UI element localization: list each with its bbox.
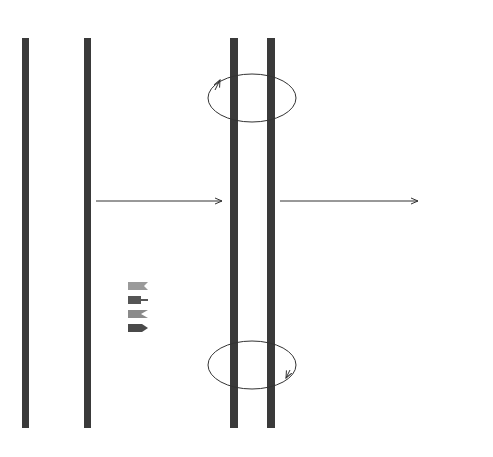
guanine-icon xyxy=(128,309,150,319)
cytosine-icon xyxy=(128,323,150,333)
base-legend xyxy=(128,280,154,336)
legend-item-c xyxy=(128,322,154,334)
adenine-icon xyxy=(128,281,150,291)
rotation-ellipse-top xyxy=(208,74,296,122)
legend-item-t xyxy=(128,294,154,306)
rotation-ellipse-bottom xyxy=(208,341,296,389)
paired-ladder xyxy=(230,38,275,428)
right-strand-3to5 xyxy=(84,38,91,428)
legend-item-a xyxy=(128,280,154,292)
thymine-icon xyxy=(128,295,150,305)
legend-item-g xyxy=(128,308,154,320)
left-strand-5to3 xyxy=(22,38,29,428)
dna-diagram xyxy=(0,0,493,457)
